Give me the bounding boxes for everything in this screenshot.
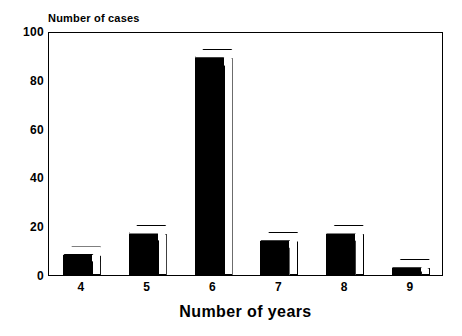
bars-layer — [49, 31, 444, 275]
bar-front-face — [392, 268, 421, 275]
x-tick-label: 5 — [127, 280, 167, 294]
y-axis-tick-labels: 020406080100 — [0, 32, 44, 276]
bar — [195, 49, 233, 275]
y-tick-label: 40 — [4, 172, 44, 184]
bar — [260, 232, 298, 275]
x-tick-label: 9 — [390, 280, 430, 294]
x-axis-title: Number of years — [48, 302, 443, 321]
bar-side-face — [158, 234, 167, 275]
y-tick-label: 0 — [4, 270, 44, 282]
y-tick-label: 100 — [4, 26, 44, 38]
bar — [392, 259, 430, 275]
bar-side-face — [421, 268, 430, 275]
x-tick-label: 7 — [258, 280, 298, 294]
bar-side-face — [224, 58, 233, 275]
bar-chart-figure: Number of cases 020406080100 456789 Numb… — [0, 0, 462, 336]
bar-side-face — [92, 255, 101, 275]
y-axis-title: Number of cases — [48, 12, 140, 25]
bar-front-face — [260, 241, 289, 275]
y-tick-label: 20 — [4, 221, 44, 233]
x-tick-label: 8 — [324, 280, 364, 294]
bar-top-face — [326, 225, 364, 234]
x-tick-label: 6 — [193, 280, 233, 294]
bar-top-face — [63, 246, 101, 255]
bar-side-face — [289, 241, 298, 275]
bar-top-face — [129, 225, 167, 234]
bar — [63, 246, 101, 275]
bar — [326, 225, 364, 275]
bar-top-face — [392, 259, 430, 268]
x-tick-label: 4 — [61, 280, 101, 294]
bar-front-face — [129, 234, 158, 275]
bar — [129, 225, 167, 275]
bar-side-face — [355, 234, 364, 275]
x-axis-tick-labels: 456789 — [48, 280, 443, 298]
plot-area — [48, 32, 443, 276]
y-tick-label: 60 — [4, 124, 44, 136]
bar-front-face — [63, 255, 92, 275]
bar-front-face — [195, 58, 224, 275]
bar-front-face — [326, 234, 355, 275]
bar-top-face — [260, 232, 298, 241]
bar-top-face — [195, 49, 233, 58]
y-tick-label: 80 — [4, 75, 44, 87]
